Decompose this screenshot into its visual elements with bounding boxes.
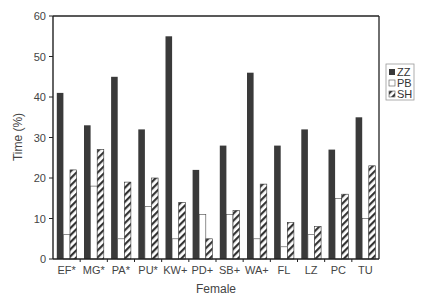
bar-pb (118, 239, 125, 259)
bar-sh (179, 202, 186, 259)
bar-group (247, 73, 267, 259)
y-tick-label: 50 (34, 51, 46, 63)
bar-group (138, 129, 158, 259)
y-tick-label: 0 (40, 253, 46, 265)
bar-sh (342, 194, 349, 259)
x-axis-title: Female (196, 282, 236, 296)
bar-group (274, 146, 294, 259)
bar-group (329, 150, 349, 260)
bar-pb (145, 206, 152, 259)
bar-pb (335, 198, 342, 259)
x-tick-label: WA+ (245, 264, 269, 276)
bar-group (84, 125, 104, 259)
bar-sh (124, 182, 131, 259)
bar-zz (274, 146, 281, 259)
x-tick-label: FL (277, 264, 290, 276)
x-tick-label: PA* (112, 264, 131, 276)
bar-pb (172, 239, 179, 259)
y-axis: 0102030405060 (34, 10, 53, 265)
bar-sh (260, 184, 267, 259)
bar-group (111, 77, 131, 259)
bar-sh (287, 223, 294, 259)
bar-group (57, 93, 77, 259)
x-tick-label: PD+ (192, 264, 214, 276)
bar-sh (152, 178, 159, 259)
bar-pb (308, 235, 315, 259)
bar-zz (84, 125, 91, 259)
legend-swatch-pb (389, 80, 395, 86)
bar-zz (329, 150, 336, 259)
bar-group (356, 117, 376, 259)
bar-group (220, 146, 240, 259)
x-tick-label: EF* (57, 264, 76, 276)
y-tick-label: 30 (34, 132, 46, 144)
bar-chart: 0102030405060 EF*MG*PA*PU*KW+PD+SB+WA+FL… (0, 0, 426, 302)
bar-zz (166, 36, 173, 259)
bar-zz (193, 170, 200, 259)
bar-zz (247, 73, 254, 259)
y-tick-label: 20 (34, 172, 46, 184)
bar-pb (362, 219, 369, 260)
y-tick-label: 60 (34, 10, 46, 22)
x-axis: EF*MG*PA*PU*KW+PD+SB+WA+FLLZPCTU (53, 259, 379, 276)
x-tick-label: KW+ (163, 264, 187, 276)
legend-swatch-zz (389, 69, 395, 75)
bar-pb (254, 239, 261, 259)
legend-label-sh: SH (397, 88, 412, 100)
bar-sh (233, 210, 240, 259)
x-tick-label: TU (358, 264, 373, 276)
x-tick-label: PU* (138, 264, 158, 276)
bar-group (193, 170, 213, 259)
bar-sh (315, 227, 322, 259)
bar-sh (70, 170, 77, 259)
bar-pb (199, 214, 206, 259)
bar-group (166, 36, 186, 259)
legend: ZZ PB SH (386, 64, 414, 100)
legend-swatch-sh (389, 91, 395, 97)
y-axis-title: Time (%) (11, 113, 25, 161)
bar-pb (91, 186, 98, 259)
bar-zz (220, 146, 227, 259)
x-tick-label: PC (331, 264, 346, 276)
bar-sh (369, 166, 376, 259)
bar-sh (206, 239, 213, 259)
bar-zz (57, 93, 64, 259)
bar-zz (138, 129, 145, 259)
y-tick-label: 40 (34, 91, 46, 103)
bar-zz (301, 129, 308, 259)
x-tick-label: MG* (83, 264, 106, 276)
plot-area (53, 16, 379, 259)
y-tick-label: 10 (34, 213, 46, 225)
bar-pb (281, 247, 288, 259)
bar-pb (226, 214, 233, 259)
bar-sh (97, 150, 104, 259)
x-tick-label: LZ (305, 264, 318, 276)
bar-zz (111, 77, 118, 259)
x-tick-label: SB+ (219, 264, 240, 276)
bar-pb (63, 235, 70, 259)
bar-group (301, 129, 321, 259)
bar-zz (356, 117, 363, 259)
